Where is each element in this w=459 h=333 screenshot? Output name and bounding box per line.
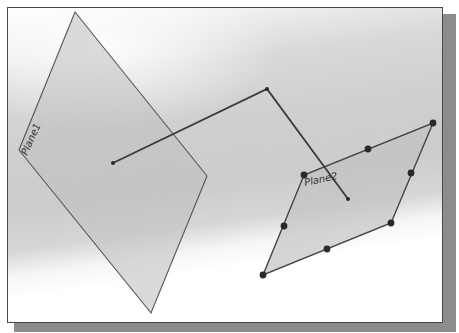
polyline-vertex[interactable] — [111, 161, 115, 165]
sketch-point[interactable] — [281, 223, 288, 230]
sketch-point[interactable] — [365, 146, 372, 153]
sketch-point[interactable] — [388, 220, 395, 227]
sketch-point[interactable] — [430, 120, 437, 127]
polyline-vertex[interactable] — [265, 87, 269, 91]
sketch-point[interactable] — [324, 246, 331, 253]
polyline-vertex[interactable] — [346, 197, 350, 201]
sketch-point[interactable] — [408, 170, 415, 177]
diagram-stage: Plane1 Plane2 — [0, 0, 459, 333]
sketch-canvas[interactable]: Plane1 Plane2 — [0, 0, 459, 333]
sketch-point[interactable] — [301, 172, 308, 179]
sketch-point[interactable] — [260, 272, 267, 279]
